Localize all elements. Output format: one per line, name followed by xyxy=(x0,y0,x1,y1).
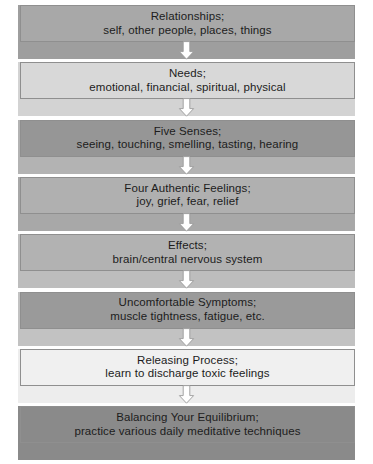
stage-description: emotional, financial, spiritual, physica… xyxy=(89,81,286,95)
stage-description: self, other people, places, things xyxy=(103,24,271,38)
stage-description: joy, grief, fear, relief xyxy=(137,195,239,209)
stage-box-needs[interactable]: Needs;emotional, financial, spiritual, p… xyxy=(20,62,355,99)
arrow-down-block-icon xyxy=(178,385,195,404)
stage-title: Needs; xyxy=(169,67,206,81)
arrow-down-block-icon xyxy=(178,328,195,347)
stage-box-uncomfortable-symptoms[interactable]: Uncomfortable Symptoms;muscle tightness,… xyxy=(20,292,355,329)
flow-diagram: Relationships;self, other people, places… xyxy=(0,0,373,464)
stage-title: Five Senses; xyxy=(154,125,222,139)
stage-description: seeing, touching, smelling, tasting, hea… xyxy=(77,138,299,152)
stage-box-balancing-your-equilibrium[interactable]: Balancing Your Equilibrium;practice vari… xyxy=(20,406,355,443)
stage-title: Effects; xyxy=(168,239,207,253)
stage-description: muscle tightness, fatigue, etc. xyxy=(110,310,265,324)
stage-effects: Effects;brain/central nervous system xyxy=(18,234,355,288)
stage-box-relationships[interactable]: Relationships;self, other people, places… xyxy=(20,5,355,42)
stage-four-authentic-feelings: Four Authentic Feelings;joy, grief, fear… xyxy=(18,177,355,231)
stage-releasing-process: Releasing Process;learn to discharge tox… xyxy=(18,349,355,403)
arrow-down-block-icon xyxy=(178,98,195,117)
stage-uncomfortable-symptoms: Uncomfortable Symptoms;muscle tightness,… xyxy=(18,292,355,346)
stage-needs: Needs;emotional, financial, spiritual, p… xyxy=(18,62,355,116)
stage-title: Balancing Your Equilibrium; xyxy=(116,411,259,425)
arrow-down-block-icon xyxy=(178,270,195,289)
stage-description: practice various daily meditative techni… xyxy=(74,425,300,439)
stage-five-senses: Five Senses;seeing, touching, smelling, … xyxy=(18,120,355,174)
stage-box-five-senses[interactable]: Five Senses;seeing, touching, smelling, … xyxy=(20,120,355,157)
stage-balancing-your-equilibrium: Balancing Your Equilibrium;practice vari… xyxy=(18,406,355,460)
stage-description: brain/central nervous system xyxy=(113,253,263,267)
stage-description: learn to discharge toxic feelings xyxy=(105,367,269,381)
stage-title: Relationships; xyxy=(151,10,225,24)
stage-title: Uncomfortable Symptoms; xyxy=(119,296,257,310)
stage-relationships: Relationships;self, other people, places… xyxy=(18,5,355,59)
stage-box-releasing-process[interactable]: Releasing Process;learn to discharge tox… xyxy=(20,349,355,386)
arrow-down-block-icon xyxy=(178,213,195,232)
stage-box-four-authentic-feelings[interactable]: Four Authentic Feelings;joy, grief, fear… xyxy=(20,177,355,214)
stage-title: Four Authentic Feelings; xyxy=(124,182,250,196)
arrow-down-block-icon xyxy=(178,156,195,175)
arrow-down-block-icon xyxy=(178,41,195,60)
stage-box-effects[interactable]: Effects;brain/central nervous system xyxy=(20,234,355,271)
stage-title: Releasing Process; xyxy=(137,354,238,368)
